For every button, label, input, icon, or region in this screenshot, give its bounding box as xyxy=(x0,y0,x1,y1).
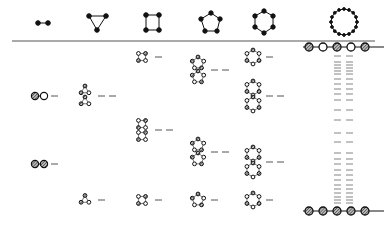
energy-levels xyxy=(31,43,384,215)
header-ring-4 xyxy=(144,13,162,33)
ring-state-icon xyxy=(190,137,205,152)
header-ring-3 xyxy=(87,14,109,33)
ring-state-icon xyxy=(79,84,91,95)
ring-state-icon xyxy=(137,119,148,130)
top-chain xyxy=(303,43,384,51)
header-ring-5 xyxy=(199,11,222,33)
ring-state-icon xyxy=(245,79,261,97)
header-ring-6 xyxy=(253,9,275,35)
ring-state-icon xyxy=(137,52,148,63)
ring-state-icon xyxy=(79,194,91,205)
header-ring-large xyxy=(330,8,359,37)
ring-state-icon xyxy=(79,95,91,106)
ring-state-icon xyxy=(190,151,205,166)
ring-state-icon xyxy=(245,145,261,163)
ring-state-icon xyxy=(245,161,261,179)
ring-state-icon xyxy=(245,95,261,113)
ring-state-icon xyxy=(245,191,261,209)
ring-state-icon xyxy=(190,55,205,70)
ring-state-icon xyxy=(190,192,205,207)
ring-state-icon xyxy=(137,195,148,206)
ring-energy-diagram xyxy=(0,0,384,225)
ring-state-icon xyxy=(245,48,261,66)
header-ring-2 xyxy=(36,21,51,26)
bottom-chain xyxy=(303,207,384,215)
ring-state-icon xyxy=(190,69,205,84)
ring-state-icon xyxy=(137,131,148,142)
